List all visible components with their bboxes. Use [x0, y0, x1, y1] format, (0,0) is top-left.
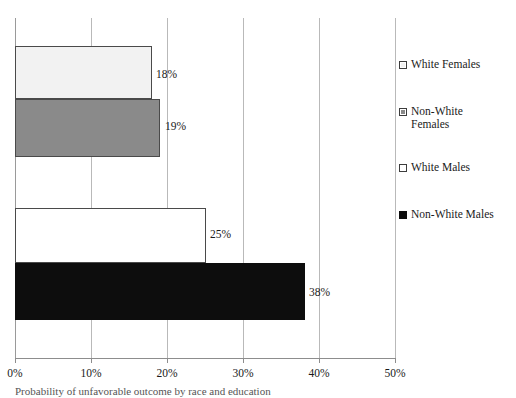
bar-value-label-non-white-females: 19%: [165, 120, 186, 132]
x-tick-label-50: 50%: [378, 367, 412, 380]
bar-value-label-white-females: 18%: [156, 68, 177, 80]
legend-item-non-white-males[interactable]: Non-White Males: [399, 208, 494, 221]
bar-white-females: [15, 46, 152, 99]
x-tick-20: [167, 359, 168, 363]
gridline-50: [395, 18, 396, 359]
x-axis-line: [15, 358, 396, 359]
x-tick-30: [243, 359, 244, 363]
chart-caption: Probability of unfavorable outcome by ra…: [15, 385, 485, 398]
legend-item-white-males[interactable]: White Males: [399, 161, 470, 174]
legend-item-non-white-females[interactable]: Non-White Females: [399, 105, 463, 131]
x-tick-label-20: 20%: [150, 367, 184, 380]
legend-item-white-females[interactable]: White Females: [399, 58, 480, 71]
plot-area: [15, 18, 395, 359]
x-tick-label-10: 10%: [74, 367, 108, 380]
bar-value-label-white-males: 25%: [210, 228, 231, 240]
x-tick-label-0: 0%: [0, 367, 30, 380]
x-tick-label-30: 30%: [226, 367, 260, 380]
bar-non-white-males: [15, 263, 305, 320]
x-tick-0: [15, 359, 16, 363]
x-tick-label-40: 40%: [302, 367, 336, 380]
bar-value-label-non-white-males: 38%: [309, 286, 330, 298]
light-gray-square-icon: [399, 61, 407, 69]
legend-label-non-white-females: Non-White Females: [411, 105, 463, 131]
legend-label-white-males: White Males: [411, 161, 470, 174]
x-tick-10: [91, 359, 92, 363]
legend-label-non-white-males: Non-White Males: [411, 208, 494, 221]
gray-square-icon: [399, 108, 407, 116]
legend-label-white-females: White Females: [411, 58, 480, 71]
gridline-40: [319, 18, 320, 359]
x-tick-40: [319, 359, 320, 363]
x-tick-50: [395, 359, 396, 363]
bar-white-males: [15, 208, 206, 263]
white-square-icon: [399, 164, 407, 172]
black-square-icon: [399, 211, 407, 219]
bar-non-white-females: [15, 99, 160, 157]
